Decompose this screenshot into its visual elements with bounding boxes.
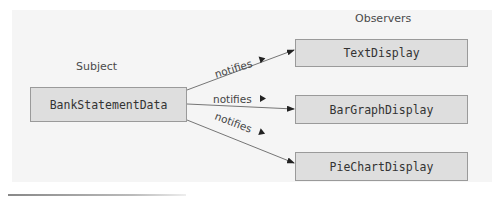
direction-triangle-icon xyxy=(258,128,266,137)
edge-label: notifies xyxy=(213,93,252,105)
edge-label: notifies xyxy=(213,110,253,135)
notify-arrows: notifies notifies notifies xyxy=(0,0,502,199)
bottom-rule xyxy=(8,194,186,196)
direction-triangle-icon xyxy=(260,95,266,102)
edge-label: notifies xyxy=(213,57,253,80)
